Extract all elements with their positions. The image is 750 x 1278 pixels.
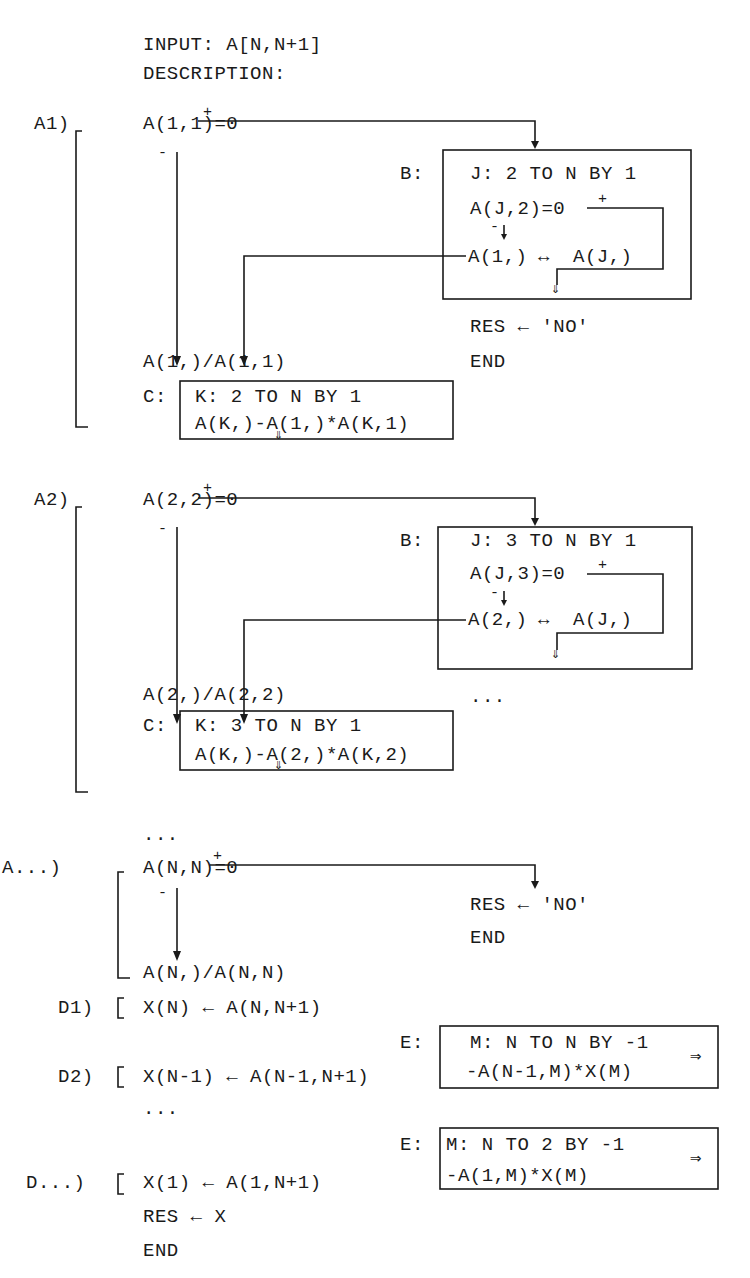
b-plus-a1: +	[598, 192, 607, 208]
b-label-a2: B:	[400, 530, 424, 552]
an-minus: -	[158, 886, 167, 902]
d2-expr: X(N-1) ← A(N-1,N+1)	[143, 1066, 369, 1088]
b-cond-a2: A(J,3)=0	[470, 563, 565, 585]
an-bracket	[118, 872, 130, 978]
a1-minus: -	[158, 146, 167, 162]
e-expr-d2: -A(N-1,M)*X(M)	[466, 1061, 633, 1083]
step-label-dn: D...)	[26, 1172, 86, 1194]
swap-arrow-icon: ↔	[538, 246, 550, 268]
a1-plus: +	[203, 105, 212, 121]
dn-expr: X(1) ← A(1,N+1)	[143, 1172, 322, 1194]
c-expr-a1: A(K,)-A(1,)*A(K,1)	[195, 413, 409, 435]
c-loop-a1: K: 2 TO N BY 1	[195, 386, 362, 408]
b-swap-right-a1: A(J,)	[573, 246, 633, 268]
c-loop-a2: K: 3 TO N BY 1	[195, 715, 362, 737]
a1-fail-end: END	[470, 351, 506, 373]
d1-expr: X(N) ← A(N,N+1)	[143, 997, 322, 1019]
input-line: INPUT: A[N,N+1]	[143, 34, 322, 56]
down-double-arrow-icon: ⇓	[274, 428, 283, 444]
a2-ellipsis: ...	[470, 686, 506, 708]
step-label-a2: A2)	[34, 489, 70, 511]
e-loop-dn: M: N TO 2 BY -1	[446, 1134, 625, 1156]
e-label-d2: E:	[400, 1032, 424, 1054]
b-label-a1: B:	[400, 163, 424, 185]
a1-fail-res: RES ← 'NO'	[470, 316, 589, 338]
b-swap-right-a2: A(J,)	[573, 609, 633, 631]
b-plus-a2: +	[598, 558, 607, 574]
b-minus-a2: -	[490, 586, 499, 602]
a2-bracket	[76, 507, 88, 792]
double-right-arrow-icon: ⇒	[690, 1046, 702, 1068]
description-label: DESCRIPTION:	[143, 63, 286, 85]
b-swap-left-a1: A(1,)	[468, 246, 528, 268]
b-swap-left-a2: A(2,)	[468, 609, 528, 631]
step-label-a1: A1)	[34, 113, 70, 135]
swap-arrow-icon: ↔	[538, 609, 550, 631]
a2-divide: A(2,)/A(2,2)	[143, 684, 286, 706]
c-expr-a2: A(K,)-A(2,)*A(K,2)	[195, 744, 409, 766]
dn-end: END	[143, 1240, 179, 1262]
e-loop-d2: M: N TO N BY -1	[470, 1032, 649, 1054]
an-condition: A(N,N)=0	[143, 857, 238, 879]
a2-minus: -	[158, 522, 167, 538]
down-double-arrow-icon: ⇓	[551, 282, 560, 298]
ellipsis-mid: ...	[143, 824, 179, 846]
down-double-arrow-icon: ⇓	[274, 758, 283, 774]
a1-bracket	[76, 131, 88, 427]
b-minus-a1: -	[490, 220, 499, 236]
b-cond-a1: A(J,2)=0	[470, 198, 565, 220]
b-loop-a1: J: 2 TO N BY 1	[470, 163, 637, 185]
an-fail-res: RES ← 'NO'	[470, 894, 589, 916]
dn-res: RES ← X	[143, 1206, 226, 1228]
an-plus: +	[213, 849, 222, 865]
e-label-dn: E:	[400, 1134, 424, 1156]
a2-condition: A(2,2)=0	[143, 489, 238, 511]
double-right-arrow-icon: ⇒	[690, 1148, 702, 1170]
step-label-an: A...)	[2, 857, 62, 879]
c-label-a2: C:	[143, 715, 167, 737]
ellipsis-d: ...	[143, 1098, 179, 1120]
a2-plus: +	[203, 481, 212, 497]
b-loop-a2: J: 3 TO N BY 1	[470, 530, 637, 552]
step-label-d2: D2)	[58, 1066, 94, 1088]
a1-condition: A(1,1)=0	[143, 113, 238, 135]
c-label-a1: C:	[143, 386, 167, 408]
an-fail-end: END	[470, 927, 506, 949]
e-expr-dn: -A(1,M)*X(M)	[446, 1165, 589, 1187]
step-label-d1: D1)	[58, 997, 94, 1019]
an-divide: A(N,)/A(N,N)	[143, 962, 286, 984]
down-double-arrow-icon: ⇓	[551, 647, 560, 663]
a1-divide: A(1,)/A(1,1)	[143, 351, 286, 373]
flowchart-lines	[0, 0, 750, 1278]
